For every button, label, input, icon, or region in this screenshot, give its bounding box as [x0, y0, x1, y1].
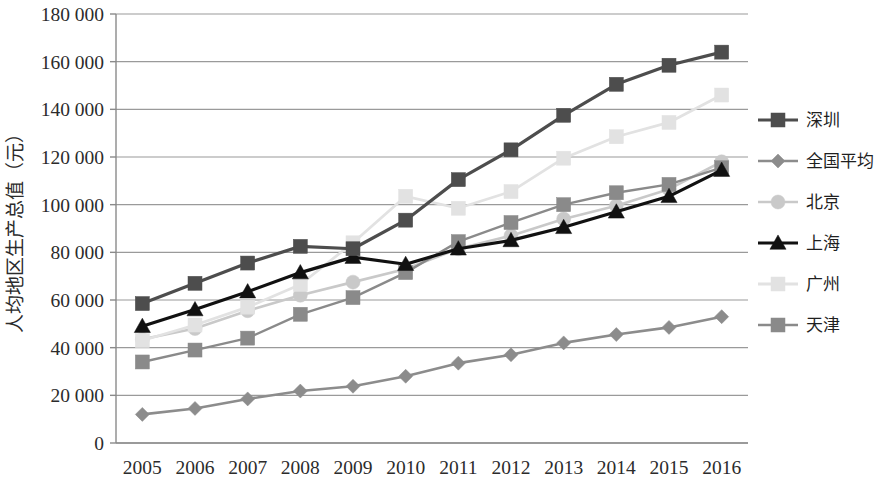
data-point-marker [451, 173, 465, 187]
data-point-marker [241, 300, 255, 314]
legend-label: 上海 [806, 234, 840, 253]
data-point-marker [609, 130, 623, 144]
x-tick-label: 2015 [650, 457, 689, 478]
data-point-marker [346, 242, 360, 256]
x-tick-label: 2005 [123, 457, 162, 478]
data-point-marker [188, 343, 202, 357]
data-point-marker [451, 201, 465, 215]
data-point-marker [293, 278, 307, 292]
x-tick-label: 2008 [281, 457, 320, 478]
y-tick-label: 80 000 [50, 242, 104, 263]
data-point-marker [504, 143, 518, 157]
data-point-marker [293, 307, 307, 321]
x-tick-label: 2013 [544, 457, 583, 478]
y-axis-title: 人均地区生产总值（元） [5, 124, 26, 333]
data-point-marker [715, 45, 729, 59]
x-tick-label: 2006 [176, 457, 215, 478]
y-tick-label: 40 000 [50, 338, 104, 359]
chart-background [0, 0, 874, 479]
legend-marker-swatch [771, 195, 785, 209]
y-tick-label: 160 000 [41, 52, 104, 73]
legend-marker-swatch [771, 277, 785, 291]
data-point-marker [609, 77, 623, 91]
x-tick-label: 2007 [228, 457, 267, 478]
data-point-marker [346, 291, 360, 305]
x-tick-label: 2014 [597, 457, 636, 478]
data-point-marker [293, 239, 307, 253]
legend-label: 广州 [806, 275, 840, 294]
data-point-marker [399, 189, 413, 203]
y-tick-label: 180 000 [41, 4, 104, 25]
data-point-marker [557, 198, 571, 212]
y-tick-label: 140 000 [41, 99, 104, 120]
x-tick-label: 2009 [334, 457, 373, 478]
y-tick-label: 120 000 [41, 147, 104, 168]
data-point-marker [188, 276, 202, 290]
data-point-marker [188, 318, 202, 332]
x-tick-label: 2016 [702, 457, 741, 478]
legend-label: 深圳 [806, 111, 840, 130]
legend-marker-swatch [771, 113, 785, 127]
data-point-marker [557, 151, 571, 165]
x-tick-label: 2012 [492, 457, 531, 478]
legend-label: 北京 [806, 193, 840, 212]
y-tick-label: 0 [94, 433, 104, 454]
legend-label: 全国平均 [806, 152, 874, 171]
data-point-marker [346, 275, 360, 289]
legend-marker-swatch [771, 318, 785, 332]
y-tick-label: 100 000 [41, 195, 104, 216]
chart-container: 020 00040 00060 00080 000100 000120 0001… [0, 0, 874, 479]
y-tick-label: 20 000 [50, 385, 104, 406]
data-point-marker [135, 355, 149, 369]
legend-label: 天津 [806, 316, 840, 335]
line-chart: 020 00040 00060 00080 000100 000120 0001… [0, 0, 874, 479]
data-point-marker [504, 185, 518, 199]
x-tick-label: 2011 [439, 457, 477, 478]
data-point-marker [715, 88, 729, 102]
x-tick-label: 2010 [386, 457, 425, 478]
data-point-marker [135, 297, 149, 311]
data-point-marker [662, 115, 676, 129]
data-point-marker [135, 334, 149, 348]
data-point-marker [662, 58, 676, 72]
data-point-marker [557, 108, 571, 122]
data-point-marker [504, 216, 518, 230]
y-axis-title-text: 人均地区生产总值（元） [5, 124, 26, 333]
data-point-marker [241, 331, 255, 345]
data-point-marker [399, 213, 413, 227]
y-tick-label: 60 000 [50, 290, 104, 311]
data-point-marker [609, 186, 623, 200]
data-point-marker [241, 256, 255, 270]
